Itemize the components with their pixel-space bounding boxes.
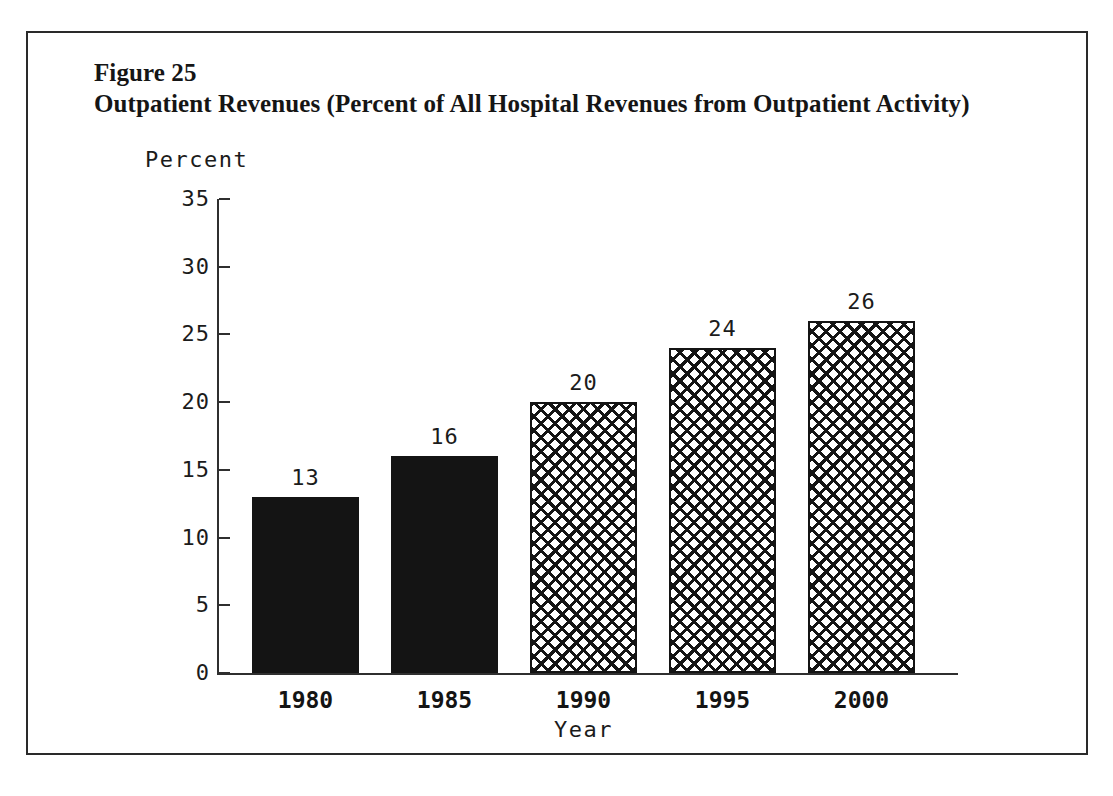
bar-value-label-1990: 20 bbox=[524, 370, 644, 395]
figure-page: Figure 25 Outpatient Revenues (Percent o… bbox=[0, 0, 1113, 796]
bar-1985 bbox=[391, 456, 498, 673]
x-axis-title: Year bbox=[384, 717, 784, 742]
bar-value-label-1980: 13 bbox=[246, 465, 366, 490]
bar-1990 bbox=[530, 402, 637, 673]
bar-1995 bbox=[669, 348, 776, 673]
bar-value-label-2000: 26 bbox=[802, 289, 922, 314]
bar-chart-plot: Percent 05101520253035198019851990199520… bbox=[28, 33, 1090, 757]
bar-2000 bbox=[808, 321, 915, 673]
figure-frame: Figure 25 Outpatient Revenues (Percent o… bbox=[26, 31, 1088, 755]
bar-value-label-1985: 16 bbox=[385, 424, 505, 449]
bars-layer: 1316202426 bbox=[28, 33, 1090, 757]
bar-value-label-1995: 24 bbox=[663, 316, 783, 341]
bar-1980 bbox=[252, 497, 359, 673]
